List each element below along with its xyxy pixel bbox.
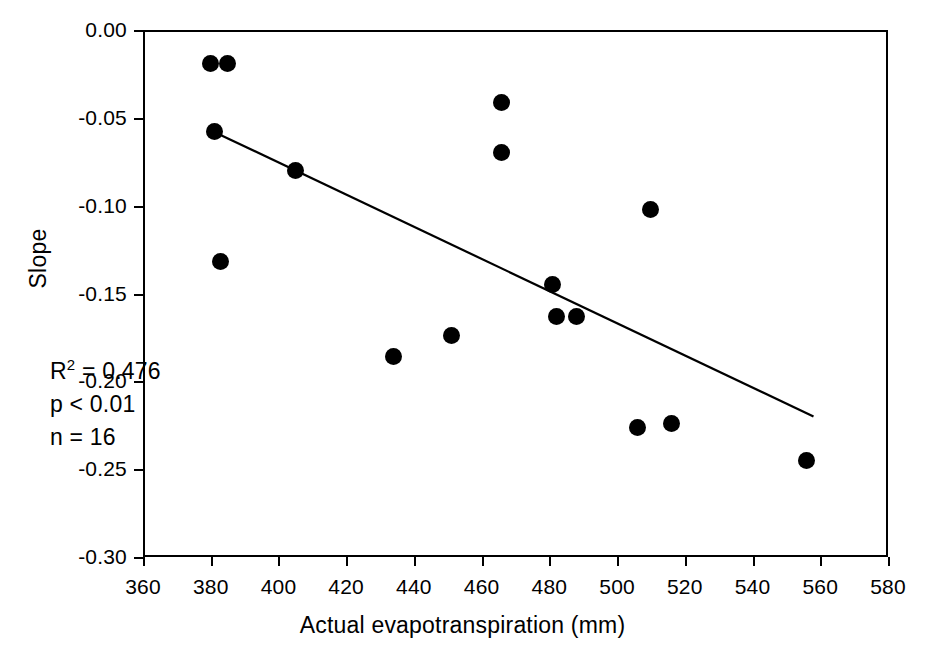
data-point (798, 452, 815, 469)
x-axis-tick (211, 557, 213, 566)
data-point (568, 308, 585, 325)
y-axis-tick-label: -0.05 (78, 107, 127, 128)
y-axis-tick (134, 294, 143, 296)
x-axis-tick (549, 557, 551, 566)
x-axis-tick (278, 557, 280, 566)
y-axis-tick (134, 469, 143, 471)
x-axis-tick (820, 557, 822, 566)
statistics-annotation: R2 = 0.476 p < 0.01 n = 16 (50, 355, 161, 454)
regression-line (214, 132, 813, 417)
x-axis-tick (346, 557, 348, 566)
x-axis-tick (482, 557, 484, 566)
x-axis-tick (685, 557, 687, 566)
y-axis-tick (134, 118, 143, 120)
y-axis-tick-label: 0.00 (85, 19, 127, 40)
p-value-line: p < 0.01 (50, 388, 161, 421)
y-axis-tick (134, 30, 143, 32)
x-axis-title: Actual evapotranspiration (mm) (0, 612, 925, 639)
y-axis-tick (134, 557, 143, 559)
data-point (663, 415, 680, 432)
data-point (548, 308, 565, 325)
x-axis-tick-label: 580 (848, 576, 925, 597)
regression-line-svg (143, 30, 888, 557)
n-value-line: n = 16 (50, 421, 161, 454)
y-axis-tick-label: -0.25 (78, 458, 127, 479)
r-squared-prefix: R (50, 358, 67, 384)
x-axis-tick (753, 557, 755, 566)
data-point (219, 55, 236, 72)
y-axis-tick (134, 206, 143, 208)
y-axis-tick-label: -0.10 (78, 195, 127, 216)
y-axis-title: Slope (25, 199, 52, 319)
data-point (493, 94, 510, 111)
r-squared-line: R2 = 0.476 (50, 355, 161, 388)
scatter-plot-figure: 0.00-0.05-0.10-0.15-0.20-0.25-0.30 36038… (0, 0, 925, 671)
plot-area (143, 30, 888, 557)
x-axis-tick (414, 557, 416, 566)
data-point (206, 123, 223, 140)
y-axis-tick-label: -0.15 (78, 283, 127, 304)
x-axis-tick (617, 557, 619, 566)
data-point (287, 162, 304, 179)
x-axis-tick (143, 557, 145, 566)
x-axis-tick (888, 557, 890, 566)
data-point (202, 55, 219, 72)
data-point (443, 327, 460, 344)
data-point (629, 419, 646, 436)
y-axis-tick-label: -0.30 (78, 546, 127, 567)
r-squared-value: = 0.476 (75, 358, 160, 384)
